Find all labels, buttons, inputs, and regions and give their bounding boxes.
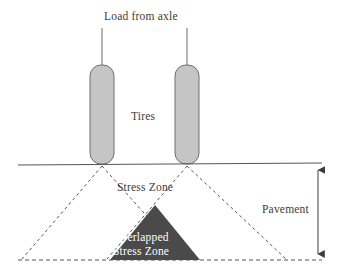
tire-right: [175, 65, 199, 164]
label-tires: Tires: [131, 110, 155, 122]
label-stress-zone: Stress Zone: [117, 181, 173, 193]
label-overlapped-line2: Stress Zone: [113, 244, 169, 258]
tire-left: [90, 65, 114, 164]
ground-surface-line: [18, 163, 322, 165]
pavement-load-diagram: Load from axle Tires Stress Zone Pavemen…: [0, 0, 341, 280]
label-overlapped-line1: Overlapped: [113, 230, 169, 244]
stress-cone-left-outer: [22, 166, 102, 259]
diagram-canvas: [0, 0, 341, 280]
label-load-from-axle: Load from axle: [104, 10, 178, 22]
label-overlapped-stress-zone: Overlapped Stress Zone: [113, 230, 169, 258]
label-pavement: Pavement: [262, 203, 309, 215]
